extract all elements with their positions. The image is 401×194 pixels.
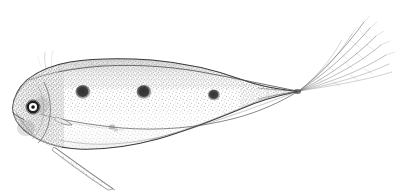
figure-root: Ribbonfish ink stipple and line drawing … (0, 0, 401, 194)
tail-base-knob (294, 89, 301, 94)
spot-3 (208, 90, 220, 101)
eye-highlight (31, 105, 32, 106)
eye (26, 100, 40, 114)
spot-2 (137, 85, 152, 99)
spot-1 (76, 85, 91, 99)
chin-shading (17, 120, 35, 136)
fish-illustration (0, 0, 401, 194)
